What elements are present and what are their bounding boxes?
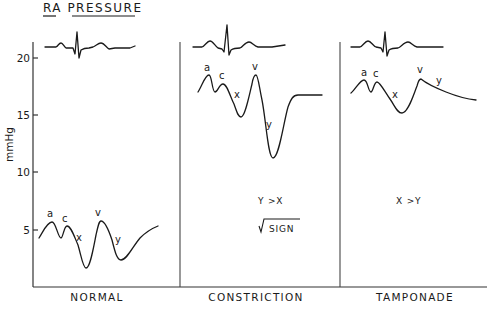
- panel-tamponade: a c x v y X >Y TAMPONADE: [351, 32, 476, 303]
- y-tick-15: 15: [17, 109, 30, 121]
- pressure-trace: [351, 79, 476, 113]
- wave-label-c: c: [219, 70, 225, 81]
- ecg-trace: [351, 32, 443, 56]
- wave-label-x: x: [392, 89, 398, 100]
- wave-label-v: v: [252, 61, 258, 72]
- ecg-trace: [45, 32, 135, 58]
- pressure-trace: [198, 75, 322, 158]
- wave-label-a: a: [204, 62, 210, 73]
- wave-label-a: a: [361, 67, 367, 78]
- ra-pressure-diagram: RA PRESSURE 20 15 10 5 mmHg a c x v y NO…: [0, 0, 490, 310]
- diagram-title: RA PRESSURE: [43, 1, 142, 15]
- panel-label-tamponade: TAMPONADE: [375, 291, 454, 303]
- wave-label-y: y: [436, 75, 442, 86]
- y-tick-5: 5: [23, 224, 30, 236]
- panel-normal: a c x v y NORMAL: [39, 32, 158, 303]
- wave-label-x: x: [234, 89, 240, 100]
- sign-label: SIGN: [269, 224, 294, 234]
- wave-label-x: x: [76, 232, 82, 243]
- annotation-x-gt-y: X >Y: [396, 196, 421, 206]
- pressure-trace: [39, 221, 158, 268]
- y-ticks: 20 15 10 5: [17, 52, 38, 236]
- wave-label-c: c: [62, 213, 68, 224]
- wave-label-c: c: [373, 68, 379, 79]
- y-tick-10: 10: [17, 166, 30, 178]
- wave-label-v: v: [417, 64, 423, 75]
- ecg-trace: [193, 25, 285, 55]
- panel-label-normal: NORMAL: [70, 291, 123, 303]
- wave-label-y: y: [115, 234, 121, 245]
- y-axis-label: mmHg: [3, 127, 15, 162]
- wave-label-a: a: [47, 208, 53, 219]
- panel-label-constriction: CONSTRICTION: [208, 291, 303, 303]
- wave-label-v: v: [95, 207, 101, 218]
- y-tick-20: 20: [17, 52, 30, 64]
- annotation-y-gt-x: Y >X: [257, 196, 283, 206]
- wave-label-y: y: [266, 119, 272, 130]
- panel-constriction: a c x v y Y >X SIGN CONSTRICTION: [193, 25, 322, 303]
